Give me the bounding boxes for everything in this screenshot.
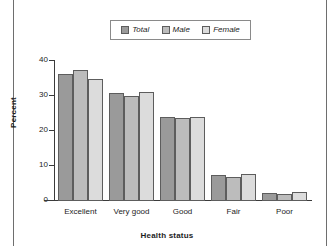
x-axis-tick-label: Fair [208,208,259,216]
legend-swatch-icon [121,26,129,34]
y-axis-title: Percent [9,78,18,148]
bar-group [109,60,154,201]
bar-group [211,60,256,201]
plot-area [55,60,310,201]
bar[interactable] [58,74,73,201]
x-axis-tick-label: Good [157,208,208,216]
y-axis-tick [49,200,54,201]
legend-swatch-icon [162,26,170,34]
bar-group [262,60,307,201]
bar[interactable] [241,174,256,201]
bar[interactable] [175,118,190,201]
y-axis-tick [49,165,54,166]
legend-entry[interactable]: Male [162,26,190,34]
page-right-rule [326,0,327,246]
legend-entry[interactable]: Total [121,26,149,34]
x-axis-tick-label: Poor [259,208,310,216]
y-axis-tick [49,130,54,131]
bar-group [58,60,103,201]
bar[interactable] [226,177,241,202]
legend-entry[interactable]: Female [202,26,240,34]
bar-group [160,60,205,201]
bar[interactable] [88,79,103,202]
bar[interactable] [139,92,154,201]
y-axis-tick-label: 20 [28,126,48,134]
y-axis-tick-label: 30 [28,91,48,99]
legend-label: Male [173,26,190,34]
legend-label: Female [213,26,240,34]
y-axis-tick [49,60,54,61]
y-axis-tick-label: 10 [28,161,48,169]
legend-label: Total [132,26,149,34]
bar[interactable] [292,192,307,201]
bar[interactable] [73,70,88,201]
y-axis-tick-labels: 010203040 [24,0,48,246]
y-axis-tick-label: 40 [28,56,48,64]
bar[interactable] [109,93,124,201]
chart-page: TotalMaleFemale 010203040 Percent Health… [0,0,334,246]
x-axis-tick-label: Very good [106,208,157,216]
bar[interactable] [190,117,205,201]
bar[interactable] [262,193,277,201]
bar[interactable] [160,117,175,201]
bar[interactable] [124,96,139,201]
bar[interactable] [277,194,292,201]
y-axis-tick [49,95,54,96]
chart-legend: TotalMaleFemale [110,20,251,40]
x-axis-tick-label: Excellent [55,208,106,216]
bar[interactable] [211,175,226,201]
legend-swatch-icon [202,26,210,34]
x-axis-title: Health status [0,231,334,240]
